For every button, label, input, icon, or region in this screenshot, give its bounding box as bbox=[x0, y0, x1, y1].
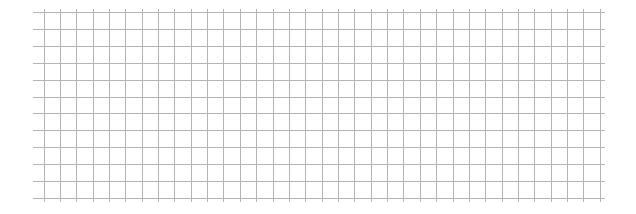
graph-paper-grid bbox=[0, 0, 636, 214]
